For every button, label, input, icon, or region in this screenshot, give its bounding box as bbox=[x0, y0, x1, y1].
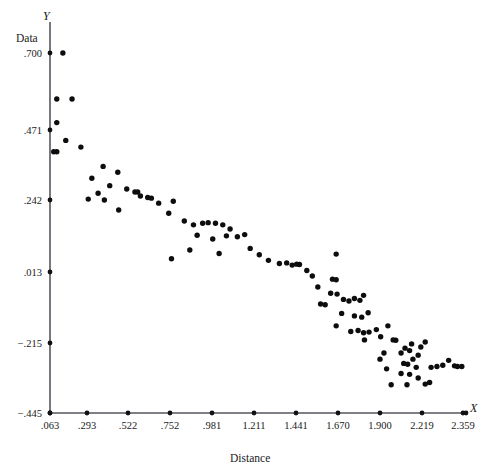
data-point bbox=[459, 364, 464, 369]
data-point bbox=[78, 144, 83, 149]
data-point bbox=[388, 382, 393, 387]
data-point bbox=[100, 164, 105, 169]
data-point bbox=[200, 221, 205, 226]
data-point bbox=[63, 138, 68, 143]
data-point bbox=[54, 149, 59, 154]
data-point bbox=[156, 200, 161, 205]
data-point bbox=[434, 364, 439, 369]
data-point bbox=[398, 350, 403, 355]
data-point bbox=[54, 96, 59, 101]
y-tick-mark bbox=[48, 198, 53, 203]
x-tick-mark bbox=[168, 411, 173, 416]
data-point bbox=[384, 366, 389, 371]
data-point bbox=[415, 375, 420, 380]
x-tick-mark bbox=[336, 411, 341, 416]
x-tick-mark bbox=[420, 411, 425, 416]
data-point bbox=[310, 273, 315, 278]
x-tick-label: .293 bbox=[78, 420, 96, 431]
data-point bbox=[404, 382, 409, 387]
data-point bbox=[182, 218, 187, 223]
x-tick-label: .522 bbox=[119, 420, 137, 431]
data-point bbox=[334, 291, 339, 296]
data-point bbox=[266, 258, 271, 263]
data-point bbox=[428, 365, 433, 370]
data-point bbox=[102, 197, 107, 202]
data-point bbox=[284, 260, 289, 265]
x-tick-mark bbox=[378, 411, 383, 416]
y-tick-label: −.445 bbox=[18, 408, 42, 419]
y-tick-mark bbox=[48, 341, 53, 346]
x-tick-label: 2.219 bbox=[410, 420, 434, 431]
data-point bbox=[398, 371, 403, 376]
x-tick-mark bbox=[210, 411, 215, 416]
data-point bbox=[194, 233, 199, 238]
data-point bbox=[385, 323, 390, 328]
y-tick-mark bbox=[48, 411, 53, 416]
data-point bbox=[333, 251, 338, 256]
data-point bbox=[69, 96, 74, 101]
data-point bbox=[361, 330, 366, 335]
data-point bbox=[418, 344, 423, 349]
plot-canvas: .063.293.522.752.9811.2111.4411.6701.900… bbox=[0, 0, 490, 471]
data-point bbox=[365, 310, 370, 315]
data-point bbox=[149, 195, 154, 200]
data-point bbox=[86, 196, 91, 201]
data-point bbox=[355, 328, 360, 333]
data-point bbox=[216, 251, 221, 256]
data-point bbox=[393, 338, 398, 343]
data-point bbox=[210, 236, 215, 241]
data-point bbox=[224, 233, 229, 238]
data-point bbox=[318, 301, 323, 306]
data-point bbox=[166, 211, 171, 216]
data-point bbox=[361, 293, 366, 298]
data-point bbox=[107, 183, 112, 188]
x-tick-label: .981 bbox=[203, 420, 221, 431]
data-point bbox=[440, 363, 445, 368]
data-point bbox=[362, 337, 367, 342]
data-point bbox=[423, 381, 428, 386]
data-point bbox=[315, 284, 320, 289]
data-point bbox=[374, 327, 379, 332]
data-point bbox=[333, 323, 338, 328]
data-point bbox=[407, 372, 412, 377]
data-point bbox=[446, 358, 451, 363]
x-axis-end-marker bbox=[464, 411, 469, 416]
data-point bbox=[359, 314, 364, 319]
y-axis-ticks: .700.471.242.013−.215−.445 bbox=[18, 48, 53, 419]
x-tick-label: .752 bbox=[161, 420, 179, 431]
data-point bbox=[352, 296, 357, 301]
data-point bbox=[60, 50, 65, 55]
data-point bbox=[378, 334, 383, 339]
data-point bbox=[322, 302, 327, 307]
data-point bbox=[341, 297, 346, 302]
data-point bbox=[405, 362, 410, 367]
data-point bbox=[235, 234, 240, 239]
data-point bbox=[304, 268, 309, 273]
y-tick-mark bbox=[48, 128, 53, 133]
data-point bbox=[333, 277, 338, 282]
y-tick-label: −.215 bbox=[18, 338, 42, 349]
data-point bbox=[191, 222, 196, 227]
x-tick-mark bbox=[126, 411, 131, 416]
y-tick-label: .013 bbox=[24, 267, 42, 278]
x-tick-label: .063 bbox=[41, 420, 59, 431]
data-point bbox=[115, 169, 120, 174]
data-point bbox=[352, 313, 357, 318]
data-point bbox=[116, 207, 121, 212]
data-point bbox=[247, 246, 252, 251]
x-tick-mark bbox=[252, 411, 257, 416]
y-tick-label: .700 bbox=[24, 48, 42, 59]
data-point bbox=[366, 329, 371, 334]
data-point bbox=[187, 247, 192, 252]
y-tick-label: .242 bbox=[24, 195, 42, 206]
data-point bbox=[339, 311, 344, 316]
x-axis-symbol: X bbox=[469, 401, 478, 415]
y-tick-label: .471 bbox=[24, 125, 42, 136]
data-point bbox=[277, 261, 282, 266]
x-tick-mark bbox=[85, 411, 90, 416]
axes-group bbox=[50, 22, 466, 413]
data-points-group bbox=[51, 50, 465, 387]
data-point bbox=[402, 345, 407, 350]
data-point bbox=[289, 262, 294, 267]
data-point bbox=[257, 252, 262, 257]
